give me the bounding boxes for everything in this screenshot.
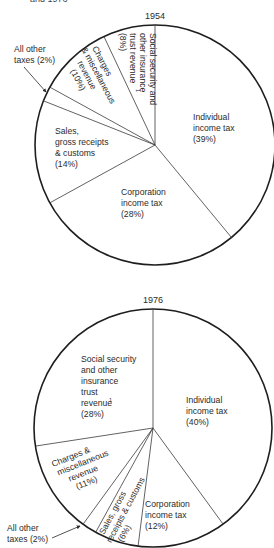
svg-text:gross receipts: gross receipts	[55, 137, 109, 147]
svg-text:(12%): (12%)	[145, 521, 168, 531]
pie-1976-boundary-charges-social	[36, 428, 153, 446]
svg-text:taxes (2%): taxes (2%)	[14, 55, 55, 65]
pie-1954-boundary-individual-corporation	[155, 145, 232, 238]
svg-text:Individual: Individual	[186, 395, 222, 405]
svg-text:income tax: income tax	[186, 406, 228, 416]
footnote-marker: 1	[135, 89, 141, 92]
svg-text:All other: All other	[7, 523, 39, 533]
svg-text:Individual: Individual	[193, 112, 229, 122]
pie-1954-label-social: Social security and other insurance trus…	[118, 33, 158, 105]
pie-1954-label-individual: Individual income tax (39%)	[193, 112, 235, 144]
svg-text:(28%): (28%)	[121, 209, 144, 219]
pie-1954-label-sales: Sales, gross receipts & customs (14%)	[55, 126, 109, 169]
svg-text:Sales,: Sales,	[55, 126, 79, 136]
pie-1954: 1954 Individual income tax (39%) Corpora…	[14, 11, 274, 265]
svg-text:Corporation: Corporation	[145, 499, 190, 509]
svg-text:insurance: insurance	[81, 376, 118, 386]
svg-text:Corporation: Corporation	[121, 187, 166, 197]
svg-text:(8%): (8%)	[118, 33, 128, 51]
pie-1976-label-social: Social security and other insurance trus…	[81, 354, 137, 419]
svg-text:(39%): (39%)	[193, 134, 216, 144]
svg-text:and other: and other	[81, 365, 117, 375]
svg-text:taxes (2%): taxes (2%)	[7, 534, 48, 544]
pie-1976-other-arrow	[52, 526, 80, 538]
svg-text:trust revenue: trust revenue	[128, 33, 138, 83]
svg-text:(28%): (28%)	[81, 409, 104, 419]
footnote-marker: 1	[109, 397, 112, 403]
pie-1976-title: 1976	[143, 295, 163, 305]
svg-text:& customs: & customs	[55, 148, 95, 158]
pie-1954-label-charges: Charges & miscellaneous revenue (10%)	[62, 41, 127, 115]
pie-charts: 1954 Individual income tax (39%) Corpora…	[0, 0, 274, 548]
svg-text:revenue: revenue	[81, 398, 112, 408]
pie-1954-title: 1954	[145, 11, 165, 21]
pie-1976-label-charges: Charges & miscellaneous revenue (11%)	[50, 438, 117, 496]
svg-text:income tax: income tax	[121, 198, 163, 208]
pie-1954-label-other: All other taxes (2%)	[14, 44, 55, 92]
svg-text:(40%): (40%)	[186, 417, 209, 427]
svg-text:income tax: income tax	[145, 510, 187, 520]
pie-1954-label-corporation: Corporation income tax (28%)	[121, 187, 166, 219]
svg-text:other insurance: other insurance	[138, 33, 148, 92]
svg-text:income tax: income tax	[193, 123, 235, 133]
svg-text:trust: trust	[81, 387, 98, 397]
svg-text:(14%): (14%)	[55, 159, 78, 169]
pie-1976-label-other: All other taxes (2%)	[7, 523, 80, 544]
pie-1976: 1976 Individual income tax (40%) Corpora…	[7, 295, 272, 548]
svg-text:Social security: Social security	[81, 354, 137, 364]
pie-1976-label-individual: Individual income tax (40%)	[186, 395, 228, 427]
pie-1954-other-arrow	[24, 67, 46, 92]
svg-text:All other: All other	[14, 44, 46, 54]
svg-text:Social security and: Social security and	[148, 33, 158, 105]
pie-1976-label-corporation: Corporation income tax (12%)	[145, 499, 190, 531]
